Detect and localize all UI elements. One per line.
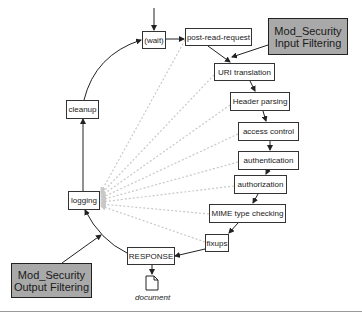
phase-authentication: authentication bbox=[238, 151, 299, 170]
document-icon bbox=[146, 276, 158, 290]
phase-logging: logging bbox=[68, 191, 100, 210]
output-filter-line2: Output Filtering bbox=[14, 281, 89, 293]
phase-authorization: authorization bbox=[234, 175, 287, 194]
phase-uri-translation: URI translation bbox=[214, 63, 275, 81]
phase-access-control: access control bbox=[238, 122, 299, 141]
mod-security-output-filtering: Mod_Security Output Filtering bbox=[11, 263, 92, 298]
phase-fixups: fixups bbox=[205, 234, 229, 252]
input-filter-line1: Mod_Security bbox=[274, 25, 341, 37]
phase-response: RESPONSE bbox=[127, 247, 175, 265]
output-filter-line1: Mod_Security bbox=[18, 269, 85, 281]
phase-post-read-request: post-read-request bbox=[185, 28, 252, 46]
phase-wait: (wait) bbox=[142, 31, 166, 49]
phase-header-parsing: Header parsing bbox=[230, 92, 290, 111]
input-filter-line2: Input Filtering bbox=[275, 37, 342, 49]
mod-security-input-filtering: Mod_Security Input Filtering bbox=[268, 18, 348, 55]
bottom-divider bbox=[0, 311, 362, 312]
phase-cleanup: cleanup bbox=[66, 100, 99, 119]
phase-mime-type-checking: MIME type checking bbox=[209, 204, 286, 223]
document-label: document bbox=[135, 293, 170, 302]
